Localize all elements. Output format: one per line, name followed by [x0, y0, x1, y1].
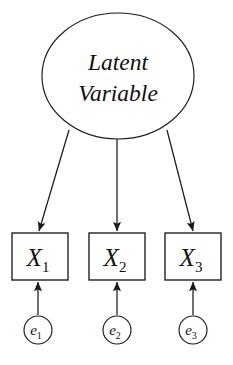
indicator-label-x3-subscript: 3 [195, 259, 203, 275]
error-label-e3-subscript: 3 [192, 330, 197, 341]
latent-variable-ellipse [42, 13, 194, 139]
error-node-e2[interactable]: e2 [103, 316, 131, 344]
indicator-label-x2-subscript: 2 [119, 259, 127, 275]
loading-path-x3 [167, 130, 193, 231]
indicator-node-x1[interactable]: X1 [12, 233, 68, 280]
loading-path-group [39, 130, 193, 231]
latent-variable-node[interactable]: Latent Variable [42, 13, 194, 139]
indicator-node-x3[interactable]: X3 [165, 233, 221, 280]
indicator-label-x1-subscript: 1 [42, 259, 50, 275]
path-diagram-canvas: Latent Variable X1 X2 X3 e1 [0, 0, 233, 365]
error-path-group [38, 282, 193, 315]
error-node-e3[interactable]: e3 [179, 316, 207, 344]
error-label-e1-subscript: 1 [37, 330, 42, 341]
loading-path-x1 [39, 130, 69, 231]
error-label-e2-subscript: 2 [116, 330, 121, 341]
indicator-node-x2[interactable]: X2 [89, 233, 145, 280]
sem-path-diagram: Latent Variable X1 X2 X3 e1 [0, 0, 233, 365]
latent-variable-label-line2: Variable [78, 80, 158, 106]
error-node-e1[interactable]: e1 [24, 316, 52, 344]
latent-variable-label-line1: Latent [87, 49, 149, 75]
